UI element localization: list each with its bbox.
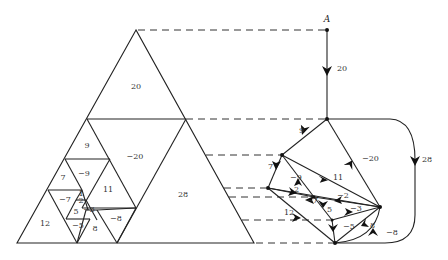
triangle-label: −9 bbox=[78, 169, 90, 178]
triangle-label: −3 bbox=[83, 205, 95, 214]
triangle-label: 12 bbox=[40, 219, 50, 228]
edge-label: −9 bbox=[290, 173, 302, 182]
edge-label: 20 bbox=[337, 64, 347, 73]
triangle-label: 11 bbox=[103, 185, 113, 194]
edge-label: 7 bbox=[268, 162, 273, 171]
triangle-label: −20 bbox=[127, 152, 144, 161]
edge-label: −2 bbox=[337, 191, 349, 200]
graph-edge-labels: 209−20287−9112−2−75−312−58−8 bbox=[268, 64, 432, 237]
triangle-labels: 209−207−91128−7125−3−812−58 bbox=[40, 82, 188, 233]
edge-label: 11 bbox=[333, 173, 343, 182]
node bbox=[280, 153, 284, 157]
edge-label: −5 bbox=[343, 222, 355, 231]
edge-label: 9 bbox=[299, 126, 304, 135]
triangle-dissection bbox=[17, 30, 254, 243]
edge-label: 8 bbox=[370, 221, 375, 230]
edge-label: −20 bbox=[362, 154, 379, 163]
edge-label: −8 bbox=[386, 228, 398, 237]
triangle-label: −5 bbox=[72, 221, 84, 230]
edge-label: 12 bbox=[284, 208, 294, 217]
triangle-label: 9 bbox=[84, 141, 89, 150]
node-A bbox=[325, 28, 329, 32]
source-label: A bbox=[323, 14, 331, 24]
node bbox=[330, 218, 333, 221]
node bbox=[333, 241, 337, 245]
triangle-label: 2 bbox=[78, 196, 83, 205]
triangle-label: 8 bbox=[92, 224, 97, 233]
edge-label: 2 bbox=[294, 185, 299, 194]
edge-label: −7 bbox=[306, 196, 318, 205]
edge-label: 5 bbox=[327, 205, 332, 214]
triangle-label: 7 bbox=[60, 173, 65, 182]
dashed-guide-lines bbox=[138, 30, 333, 243]
triangle-label: −7 bbox=[59, 195, 71, 204]
node bbox=[378, 205, 382, 209]
triangle-label: −8 bbox=[110, 214, 122, 223]
edge-label: 28 bbox=[422, 155, 432, 164]
triangle-label: 5 bbox=[73, 207, 78, 216]
triangle-label: 20 bbox=[131, 82, 141, 91]
dissection-diagram: 209−207−91128−7125−3−812−58 bbox=[0, 0, 448, 260]
edge-label: −3 bbox=[350, 204, 362, 213]
node bbox=[325, 117, 329, 121]
triangle-label: 28 bbox=[178, 190, 188, 199]
node bbox=[266, 186, 270, 190]
